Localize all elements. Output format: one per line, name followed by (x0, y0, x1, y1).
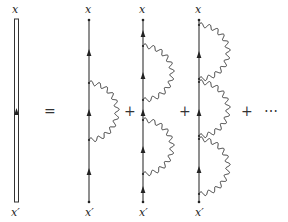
diagram-two-loop: x x′ (139, 3, 174, 219)
label-x-prime-bottom: x′ (11, 206, 20, 219)
feynman-series: x x′ = x x′ + x x′ + (0, 0, 288, 222)
plus-sign: + (241, 103, 253, 119)
endpoint-dot (88, 19, 91, 22)
endpoint-dot (198, 19, 201, 22)
photon-loop (199, 137, 230, 196)
arrow-icon (87, 109, 92, 116)
endpoint-dot (198, 201, 201, 204)
equals-sign: = (44, 103, 56, 119)
ellipsis: ⋯ (264, 103, 278, 119)
arrow-icon (197, 109, 202, 116)
diagram-three-loop: x x′ (195, 3, 230, 219)
photon-loop (199, 23, 230, 81)
label-x-prime-bottom: x′ (139, 206, 148, 219)
photon-loop (89, 81, 119, 142)
label-x-top: x (195, 3, 202, 16)
arrow-icon (141, 186, 146, 193)
label-x-top: x (85, 3, 92, 16)
endpoint-dot (142, 19, 145, 22)
label-x-prime-bottom: x′ (85, 206, 94, 219)
arrow-icon (197, 51, 202, 58)
diagram-dressed-propagator: x x′ (11, 3, 20, 219)
arrow-icon (141, 109, 146, 116)
arrow-icon (197, 166, 202, 173)
endpoint-dot (88, 201, 91, 204)
plus-sign: + (124, 103, 136, 119)
endpoint-dot (142, 201, 145, 204)
arrow-icon (141, 30, 146, 37)
arrow-icon (141, 72, 146, 79)
photon-loop (143, 118, 174, 176)
label-x-top: x (12, 3, 19, 16)
photon-loop (143, 44, 174, 102)
arrow-icon (87, 168, 92, 175)
label-x-prime-bottom: x′ (195, 206, 204, 219)
plus-sign: + (179, 103, 191, 119)
arrow-icon (87, 49, 92, 56)
photon-loop (199, 80, 230, 138)
arrow-icon (141, 146, 146, 153)
label-x-top: x (139, 3, 146, 16)
diagram-one-loop: x x′ (85, 3, 119, 219)
